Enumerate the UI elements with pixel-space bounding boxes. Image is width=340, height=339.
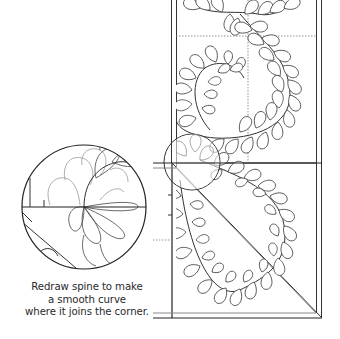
caption-line-1: Redraw spine to make (14, 281, 160, 294)
detail-magnifier (22, 135, 150, 280)
caption-line-3: where it joins the corner. (14, 306, 160, 319)
caption-line-2: a smooth curve (14, 294, 160, 307)
instruction-caption: Redraw spine to make a smooth curve wher… (14, 281, 160, 319)
